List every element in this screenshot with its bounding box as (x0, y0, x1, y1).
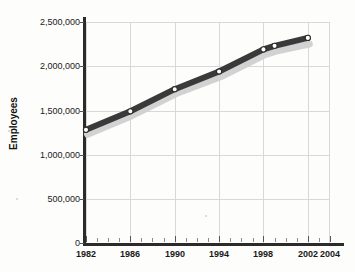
x-tick-1991 (186, 238, 187, 242)
gridline-y-1500000 (86, 111, 330, 112)
y-tick-1500000 (80, 111, 84, 112)
gridline-y-1000000 (86, 155, 330, 156)
scan-speck (205, 215, 207, 217)
gridline-x-2002 (308, 22, 309, 243)
gridline-x-1986 (86, 22, 87, 243)
y-axis-label-500000: 500,000 (2, 194, 80, 204)
x-tick-1999 (275, 238, 276, 242)
scan-speck (16, 198, 18, 200)
y-axis-label-2000000: 2,000,000 (2, 61, 80, 71)
gridline-y-2500000 (86, 22, 330, 23)
plot-area (86, 22, 330, 243)
x-tick-1993 (208, 238, 209, 242)
y-axis-label-2500000: 2,500,000 (2, 17, 80, 27)
x-tick-1987 (141, 238, 142, 242)
x-tick-1992 (197, 238, 198, 242)
y-tick-1000000 (80, 155, 84, 156)
x-axis-label-1990: 1990 (157, 249, 193, 259)
x-axis-label-1998: 1998 (245, 249, 281, 259)
x-tick-1998 (263, 236, 264, 242)
y-tick-2500000 (80, 22, 84, 23)
y-tick-500000 (80, 199, 84, 200)
x-tick-1995 (230, 238, 231, 242)
x-tick-1997 (253, 238, 254, 242)
gridline-x-1998 (263, 22, 264, 243)
x-tick-1985 (119, 238, 120, 242)
x-tick-2004 (330, 236, 331, 242)
gridline-y-2000000 (86, 66, 330, 67)
y-axis-label-0: 0 (2, 238, 80, 248)
x-tick-1986 (130, 236, 131, 242)
gridline-y-500000 (86, 199, 330, 200)
x-axis-label-1986: 1986 (112, 249, 148, 259)
gridline-x-2004 (329, 22, 330, 243)
gridline-x-1990 (175, 22, 176, 243)
scan-speck (8, 130, 10, 132)
x-tick-2002 (308, 236, 309, 242)
x-tick-1983 (97, 238, 98, 242)
x-tick-1984 (108, 238, 109, 242)
x-axis-label-1994: 1994 (201, 249, 237, 259)
x-tick-2003 (319, 238, 320, 242)
x-tick-1994 (219, 236, 220, 242)
y-tick-0 (80, 243, 84, 244)
y-axis-line (83, 17, 86, 245)
x-axis-label-1982: 1982 (68, 249, 104, 259)
x-tick-1982 (86, 236, 87, 242)
x-tick-1996 (241, 238, 242, 242)
x-tick-2000 (286, 238, 287, 242)
x-tick-2001 (297, 238, 298, 242)
x-tick-1990 (175, 236, 176, 242)
y-tick-2000000 (80, 66, 84, 67)
chart-figure: 2,500,000 2,000,000 1,500,000 1,000,000 … (0, 0, 355, 272)
y-axis-title: Employees (8, 89, 19, 159)
chart-title-fragment (95, 0, 265, 7)
x-tick-1988 (152, 238, 153, 242)
x-axis-line (83, 243, 344, 246)
x-axis-label-2004: 2004 (312, 249, 348, 259)
gridline-x-1994 (219, 22, 220, 243)
x-tick-1989 (164, 238, 165, 242)
gridline-x-1986b (130, 22, 131, 243)
